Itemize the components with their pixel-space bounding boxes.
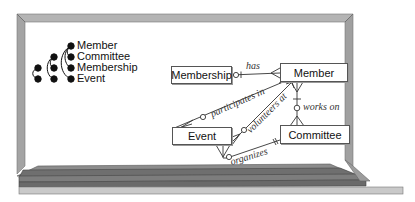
entity-label: Committee [288,129,341,141]
entity-event: Event [172,127,232,145]
entity-member: Member [280,63,348,82]
relationship-label-has: has [246,60,260,71]
entity-label: Member [294,67,334,79]
legend-label-event: Event [77,73,105,84]
entity-label: Membership [171,69,232,81]
entity-label: Event [188,130,216,142]
relationship-label-works-on: works on [303,101,339,112]
frame-left [17,14,25,174]
entity-membership: Membership [171,66,232,84]
entity-committee: Committee [280,125,350,144]
whiteboard-scene [0,0,415,202]
frame-top [17,14,353,22]
whiteboard-surface [17,14,353,174]
